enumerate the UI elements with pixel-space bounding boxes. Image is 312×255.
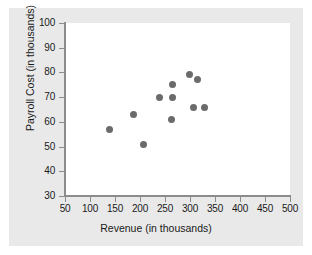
x-tick-label: 450 [252, 204, 278, 214]
scatter-point [168, 116, 175, 123]
y-tick-label: 40 [29, 166, 55, 176]
x-tick-label: 400 [227, 204, 253, 214]
chart-figure: 30405060708090100 5010015020025030035040… [9, 8, 303, 246]
scatter-point [130, 111, 137, 118]
scatter-point [156, 94, 163, 101]
x-axis-line [64, 195, 291, 197]
y-tick [59, 196, 64, 197]
x-tick-label: 500 [277, 204, 303, 214]
y-tick [59, 72, 64, 73]
x-tick [140, 197, 141, 202]
x-tick [65, 197, 66, 202]
scatter-point [106, 126, 113, 133]
y-tick-label: 30 [29, 191, 55, 201]
x-tick-label: 300 [177, 204, 203, 214]
y-tick [59, 147, 64, 148]
x-tick-label: 200 [127, 204, 153, 214]
y-tick [59, 23, 64, 24]
scatter-point [169, 94, 176, 101]
y-tick [59, 171, 64, 172]
plot-area [65, 23, 290, 196]
x-tick [240, 197, 241, 202]
x-axis-title: Revenue (in thousands) [9, 222, 303, 234]
y-tick [59, 97, 64, 98]
x-tick [215, 197, 216, 202]
y-tick [59, 48, 64, 49]
x-tick [90, 197, 91, 202]
x-tick-label: 250 [152, 204, 178, 214]
x-tick-label: 350 [202, 204, 228, 214]
x-tick [165, 197, 166, 202]
x-tick [190, 197, 191, 202]
scatter-point [186, 71, 193, 78]
x-tick-label: 50 [52, 204, 78, 214]
x-tick [115, 197, 116, 202]
x-tick-label: 100 [77, 204, 103, 214]
x-tick [290, 197, 291, 202]
y-axis-title: Payroll Cost (in thousands) [24, 0, 36, 153]
scatter-point [201, 104, 208, 111]
y-axis-line [64, 22, 66, 197]
x-tick [265, 197, 266, 202]
x-tick-label: 150 [102, 204, 128, 214]
scatter-point [190, 104, 197, 111]
y-tick [59, 122, 64, 123]
scatter-point [140, 141, 147, 148]
